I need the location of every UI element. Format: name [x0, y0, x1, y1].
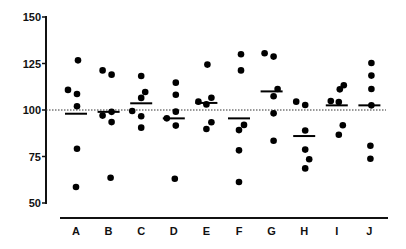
data-point [367, 155, 374, 162]
data-point [261, 50, 268, 57]
group-h [293, 98, 315, 171]
data-point [107, 174, 114, 181]
data-point [368, 86, 375, 93]
x-category-label: I [335, 225, 338, 237]
data-point [336, 99, 343, 106]
data-point [108, 71, 115, 78]
data-point [236, 179, 243, 186]
data-point [270, 53, 277, 60]
data-point [337, 86, 344, 93]
data-point [328, 98, 335, 105]
x-axis: ABCDEFGHIJ [60, 218, 388, 237]
data-point [74, 91, 81, 98]
y-tick-label: 150 [23, 11, 41, 23]
data-point [173, 108, 180, 115]
data-point [340, 122, 347, 129]
data-point [236, 127, 243, 134]
data-point [173, 122, 180, 129]
data-point [129, 108, 136, 115]
y-tick-label: 50 [29, 197, 41, 209]
data-point [293, 98, 300, 105]
data-point [306, 156, 313, 163]
data-point [203, 126, 210, 133]
data-point [236, 147, 243, 154]
group-c [129, 73, 152, 131]
group-g [261, 50, 283, 144]
data-point [99, 112, 106, 119]
group-j [358, 60, 380, 162]
data-point [302, 146, 309, 153]
data-point [336, 131, 343, 138]
data-point [99, 67, 106, 74]
group-d [163, 79, 185, 182]
data-point [138, 124, 145, 131]
x-category-label: H [300, 225, 308, 237]
data-point [74, 103, 81, 110]
data-point [172, 176, 179, 183]
group-a [65, 57, 87, 190]
data-point [241, 122, 248, 129]
data-point [173, 79, 180, 86]
y-axis: 5075100125150 [23, 11, 46, 209]
y-tick-label: 75 [29, 151, 41, 163]
data-point [138, 73, 145, 80]
group-f [228, 51, 250, 185]
data-point [73, 184, 80, 191]
data-point [270, 110, 277, 117]
data-point [368, 72, 375, 79]
data-point [270, 93, 277, 100]
x-category-label: C [137, 225, 145, 237]
data-point [195, 98, 202, 105]
x-category-label: J [366, 225, 372, 237]
group-e [195, 61, 217, 132]
data-point [270, 137, 277, 144]
data-point [204, 61, 211, 68]
data-point [238, 67, 245, 74]
data-point [208, 94, 215, 101]
y-tick-label: 100 [23, 104, 41, 116]
x-category-label: B [105, 225, 113, 237]
data-point [173, 91, 180, 98]
data-point [138, 95, 145, 102]
data-point [75, 57, 82, 64]
data-point [65, 87, 72, 94]
data-point [208, 119, 215, 126]
group-b [98, 67, 120, 181]
data-point [302, 127, 309, 134]
data-point [238, 51, 245, 58]
data-point [302, 165, 309, 172]
x-category-label: E [203, 225, 210, 237]
x-category-label: G [267, 225, 276, 237]
data-point [367, 142, 374, 149]
data-point [302, 102, 309, 109]
data-point [108, 119, 115, 126]
x-category-label: F [236, 225, 243, 237]
data-point [368, 60, 375, 67]
x-category-label: A [72, 225, 80, 237]
dot-plot-chart: 5075100125150 ABCDEFGHIJ [0, 0, 406, 249]
data-point [138, 113, 145, 120]
data-point [74, 145, 81, 152]
y-tick-label: 125 [23, 58, 41, 70]
data-point [142, 89, 149, 96]
data-groups [65, 50, 381, 190]
x-category-label: D [170, 225, 178, 237]
